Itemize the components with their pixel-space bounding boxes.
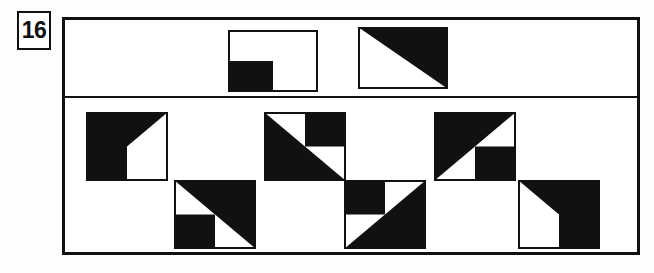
option-f-black-right-with-white-lower-left-and-black-upper-left-triangle[interactable] bbox=[518, 180, 600, 249]
option-b-lower-left-triangle-black-plus-upper-right-quadrant-black[interactable] bbox=[264, 112, 346, 181]
square-with-black-lower-left-quadrant bbox=[228, 30, 318, 92]
option-c-upper-left-triangle-black-plus-lower-right-quadrant-black[interactable] bbox=[434, 112, 516, 181]
item-number-badge: 16 bbox=[17, 11, 51, 50]
puzzle-page: 16 bbox=[0, 0, 654, 273]
stimulus-row bbox=[62, 17, 640, 96]
option-a-black-left-with-white-lower-right-and-white-upper-right-triangle[interactable] bbox=[86, 112, 168, 181]
square-with-black-upper-right-triangle bbox=[358, 27, 448, 89]
option-e-lower-right-triangle-black-plus-upper-left-quadrant-black[interactable] bbox=[344, 180, 426, 249]
option-d-upper-right-triangle-black-plus-lower-left-quadrant-black[interactable] bbox=[174, 180, 256, 249]
